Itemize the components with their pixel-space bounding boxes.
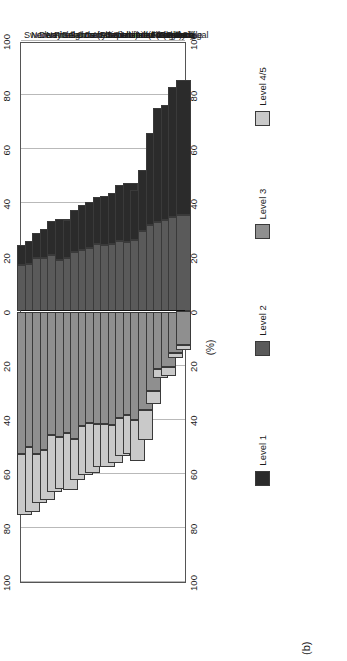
x-tick-label: 60 — [1, 145, 12, 156]
x-tick-label: 40 — [188, 415, 199, 426]
panel-label: (b) — [300, 642, 312, 655]
x-tick-label: 60 — [188, 145, 199, 156]
x-tick-label: 20 — [188, 253, 199, 264]
zero-axis-line — [21, 310, 185, 311]
figure-canvas: (b) 10080604020020406080100 100806040200… — [0, 0, 347, 661]
x-tick-label: 40 — [1, 415, 12, 426]
x-tick-label: 100 — [1, 34, 12, 50]
legend-swatch — [255, 224, 270, 239]
x-tick-label: 0 — [188, 310, 199, 315]
x-tick-label: 80 — [188, 524, 199, 535]
x-tick-label: 100 — [188, 575, 199, 591]
legend-label: Level 1 — [257, 435, 268, 466]
gridline — [21, 40, 185, 41]
x-tick-label: 40 — [1, 199, 12, 210]
legend-swatch — [255, 471, 270, 486]
x-tick-label: 0 — [1, 310, 12, 315]
legend-item: Level 2 — [255, 305, 270, 356]
x-tick-label: 40 — [188, 199, 199, 210]
x-tick-label: 80 — [1, 524, 12, 535]
x-tick-label: 20 — [1, 253, 12, 264]
legend-label: Level 4/5 — [257, 67, 268, 106]
legend-label: Level 2 — [257, 305, 268, 336]
x-tick-label: 20 — [188, 361, 199, 372]
x-axis-title: (%) — [205, 0, 216, 661]
x-tick-label: 100 — [1, 575, 12, 591]
rotated-figure-container: (b) 10080604020020406080100 100806040200… — [0, 0, 347, 661]
legend-item: Level 1 — [255, 435, 270, 486]
legend-swatch — [255, 111, 270, 126]
legend-label: Level 3 — [257, 189, 268, 220]
x-tick-label: 80 — [1, 91, 12, 102]
legend-item: Level 3 — [255, 189, 270, 240]
plot-area — [20, 42, 186, 583]
chart-legend: Level 1Level 2Level 3Level 4/5 — [255, 42, 295, 583]
x-tick-label: 80 — [188, 91, 199, 102]
legend-item: Level 4/5 — [255, 67, 270, 126]
x-tick-label: 60 — [1, 470, 12, 481]
x-axis-ticks-bottom: 10080604020020406080100 — [188, 42, 206, 583]
legend-swatch — [255, 341, 270, 356]
x-tick-label: 20 — [1, 361, 12, 372]
x-axis-title-text: (%) — [205, 340, 216, 356]
category-label: Chile — [182, 30, 203, 40]
x-tick-label: 60 — [188, 470, 199, 481]
bar-row — [179, 43, 187, 582]
